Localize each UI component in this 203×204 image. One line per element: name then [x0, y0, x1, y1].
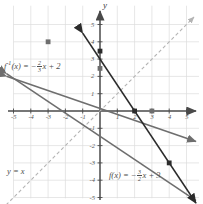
x-tick-label--1: -1 — [80, 113, 85, 120]
x-tick-label--5: -5 — [11, 113, 16, 120]
inverse-function-line-visible — [7, 76, 197, 141]
x-tick-label-5: 5 — [185, 113, 188, 120]
inverse-equation-tail: x + 2 — [43, 61, 61, 71]
x-tick-label-4: 4 — [168, 113, 171, 120]
y-tick-label--1: -1 — [90, 124, 95, 131]
function-equation-tail: x + 3 — [143, 170, 161, 180]
inverse-slope-denominator: 3 — [37, 67, 42, 73]
inverse-function-equation-label: f-1(x) = −23x + 2 — [4, 60, 61, 73]
x-tick-label--3: -3 — [46, 113, 51, 120]
y-tick-label--5: -5 — [90, 194, 95, 201]
function-slope-fraction: 32 — [137, 169, 142, 182]
x-tick-label--4: -4 — [28, 113, 33, 120]
x-tick-label-1: 1 — [116, 113, 119, 120]
y-tick-label-3: 3 — [91, 55, 94, 62]
graph-canvas — [0, 0, 203, 204]
y-tick-label-5: 5 — [91, 21, 94, 28]
inverse-function-line — [7, 74, 197, 201]
x-tick-label--2: -2 — [63, 113, 68, 120]
inverse-slope-fraction: 23 — [37, 60, 42, 73]
inverse-equation-arg: (x) = − — [11, 61, 36, 71]
function-equation-prefix: f(x) = − — [109, 170, 137, 180]
y-tick-label--4: -4 — [90, 176, 95, 183]
x-tick-label-3: 3 — [151, 113, 154, 120]
x-tick-label-2: 2 — [133, 113, 136, 120]
function-equation-label: f(x) = −32x + 3 — [109, 169, 161, 182]
function-slope-denominator: 2 — [137, 176, 142, 182]
y-tick-label-1: 1 — [91, 90, 94, 97]
y-axis-label: y — [103, 0, 107, 10]
y-tick-label-4: 4 — [91, 38, 94, 45]
y-tick-label--2: -2 — [90, 142, 95, 149]
function-slope-numerator: 3 — [137, 169, 142, 176]
y-tick-label-2: 2 — [91, 72, 94, 79]
inverse-slope-numerator: 2 — [37, 60, 42, 67]
y-tick-label--3: -3 — [90, 159, 95, 166]
coordinate-graph-figure: y -5 -4 -3 -2 -1 1 2 3 4 5 5 4 3 2 1 -1 … — [0, 0, 203, 204]
identity-line-label: y = x — [7, 166, 25, 176]
